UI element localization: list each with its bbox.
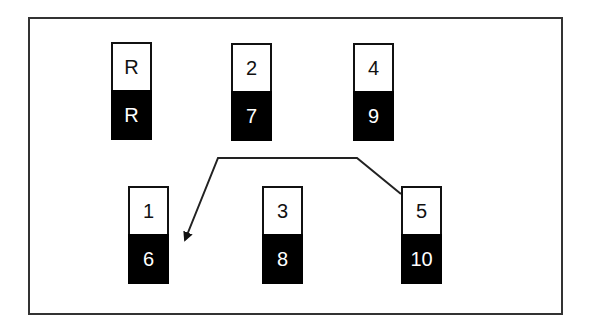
edge-arrow-5-to-1 bbox=[185, 158, 401, 240]
edge-layer bbox=[0, 0, 596, 324]
